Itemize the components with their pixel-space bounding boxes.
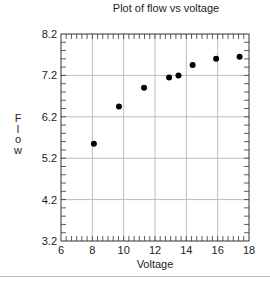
y-tick-label: 5.2 (42, 152, 57, 164)
x-tick-label: 8 (89, 244, 95, 256)
x-tick-label: 14 (180, 244, 192, 256)
data-point (116, 103, 122, 109)
data-point (237, 54, 243, 60)
data-point (176, 72, 182, 78)
x-tick-label: 10 (118, 244, 130, 256)
y-tick-label: 3.2 (42, 235, 57, 247)
data-point (166, 74, 172, 80)
data-point (190, 62, 196, 68)
gridlines (61, 34, 249, 241)
horizontal-divider (0, 276, 270, 277)
y-tick-label: 6.2 (42, 111, 57, 123)
data-point (141, 85, 147, 91)
scatter-plot: 6810121416183.24.25.26.27.28.2 (0, 0, 270, 289)
y-tick-label: 7.2 (42, 69, 57, 81)
x-tick-label: 18 (243, 244, 255, 256)
x-tick-label: 12 (149, 244, 161, 256)
data-points (91, 54, 243, 147)
x-tick-label: 6 (58, 244, 64, 256)
tick-labels: 6810121416183.24.25.26.27.28.2 (42, 28, 255, 256)
x-axis-label: Voltage (61, 258, 249, 270)
y-tick-label: 8.2 (42, 28, 57, 40)
data-point (91, 141, 97, 147)
x-tick-label: 16 (212, 244, 224, 256)
data-point (213, 56, 219, 62)
y-tick-label: 4.2 (42, 194, 57, 206)
